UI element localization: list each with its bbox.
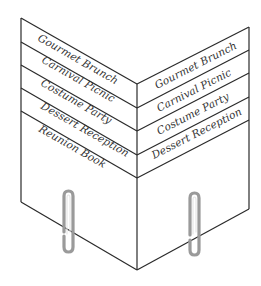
left-panel-bottom-edge (21, 202, 137, 270)
paper-clip-icon (64, 191, 73, 252)
left-labels: Gourmet Brunch Carnival Picnic Costume P… (36, 31, 132, 170)
open-book-diagram: Gourmet Brunch Carnival Picnic Costume P… (0, 0, 261, 286)
paper-clip-icon (190, 193, 199, 255)
